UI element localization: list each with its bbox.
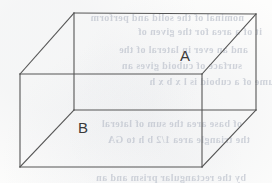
cuboid-figure bbox=[0, 0, 272, 183]
face-label-b: B bbox=[78, 120, 88, 135]
figure-canvas: nominal of the solid and perform it of a… bbox=[0, 0, 272, 183]
connector-bottom-right bbox=[202, 110, 256, 167]
connector-top-left bbox=[20, 13, 74, 74]
face-label-a: A bbox=[180, 48, 190, 63]
connector-bottom-left bbox=[20, 110, 74, 167]
connector-top-right bbox=[202, 14, 256, 74]
back-top-edge bbox=[74, 13, 256, 14]
